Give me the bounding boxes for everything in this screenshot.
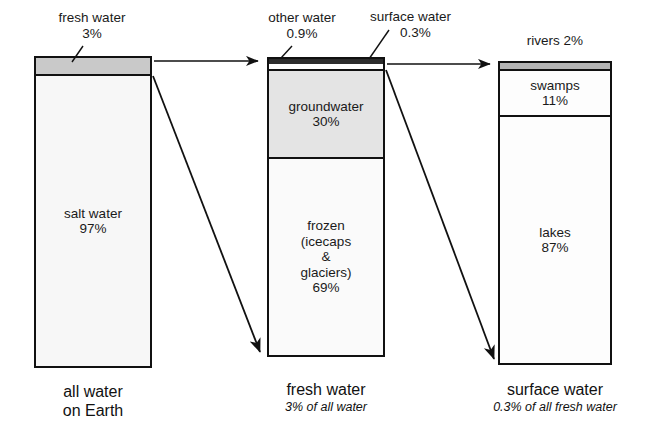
swamps-value: 11% [542, 93, 568, 109]
callout-fresh-water: fresh water 3% [27, 10, 157, 41]
groundwater-label: groundwater [288, 99, 363, 115]
segment-surface-water [269, 64, 383, 71]
arrow-all-to-fresh-diagonal [153, 76, 260, 352]
salt-water-value: 97% [79, 221, 106, 237]
callout-other-water: other water 0.9% [242, 10, 362, 41]
arrow-fresh-to-surface-diagonal [386, 70, 494, 359]
segment-fresh-water [36, 58, 150, 76]
lakes-label: lakes [539, 225, 571, 241]
caption-all-water: all water on Earth [13, 382, 173, 420]
caption-surface-water-title: surface water [475, 380, 635, 399]
surface-water-label: surface water [370, 9, 480, 25]
salt-water-label: salt water [64, 206, 122, 222]
caption-all-water-line1: all water [13, 382, 173, 401]
segment-groundwater: groundwater 30% [269, 71, 383, 159]
fresh-water-label: fresh water [27, 10, 157, 26]
groundwater-value: 30% [312, 114, 339, 130]
caption-fresh-water-sub: 3% of all water [256, 399, 396, 415]
bar-all-water: salt water 97% [34, 56, 152, 368]
bar-surface-water: swamps 11% lakes 87% [498, 61, 612, 365]
caption-surface-water-sub: 0.3% of all fresh water [475, 399, 635, 415]
frozen-label-line2: (icecaps [301, 234, 351, 250]
segment-frozen: frozen (icecaps & glaciers) 69% [269, 159, 383, 355]
callout-rivers: rivers 2% [498, 33, 612, 49]
bar-fresh-water: groundwater 30% frozen (icecaps & glacie… [267, 57, 385, 357]
frozen-label-line4: glaciers) [300, 265, 351, 281]
water-distribution-diagram: salt water 97% fresh water 3% all water … [0, 0, 660, 442]
lakes-value: 87% [541, 240, 568, 256]
callout-surface-water: surface water 0.3% [370, 9, 480, 40]
other-water-label: other water [242, 10, 362, 26]
frozen-label-line3: & [321, 249, 330, 265]
caption-fresh-water: fresh water 3% of all water [256, 380, 396, 415]
segment-swamps: swamps 11% [500, 69, 610, 117]
rivers-label: rivers 2% [498, 33, 612, 49]
segment-salt-water: salt water 97% [36, 76, 150, 366]
fresh-water-value: 3% [27, 26, 157, 42]
surface-water-value: 0.3% [400, 25, 480, 41]
other-water-value: 0.9% [242, 26, 362, 42]
swamps-label: swamps [530, 78, 580, 94]
segment-lakes: lakes 87% [500, 117, 610, 363]
caption-fresh-water-title: fresh water [256, 380, 396, 399]
caption-all-water-line2: on Earth [13, 401, 173, 420]
frozen-value: 69% [312, 280, 339, 296]
caption-surface-water: surface water 0.3% of all fresh water [475, 380, 635, 415]
frozen-label-line1: frozen [307, 218, 345, 234]
